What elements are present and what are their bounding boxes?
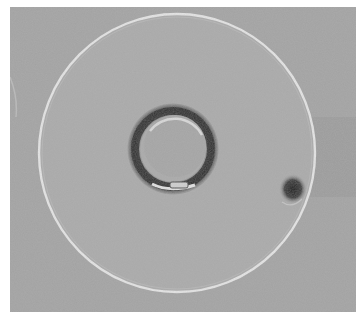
micrograph-svg — [10, 7, 356, 312]
micrograph-image — [10, 7, 356, 312]
